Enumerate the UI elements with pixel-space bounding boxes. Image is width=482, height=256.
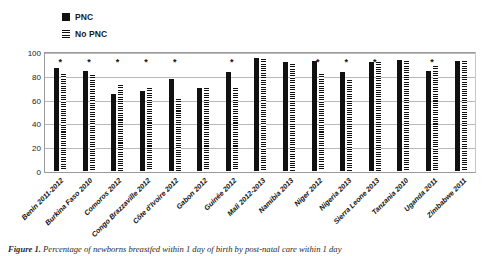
- bar-no-pnc: [319, 74, 324, 171]
- legend-swatch-hatch-icon: [62, 30, 70, 38]
- bar-pnc: [54, 68, 59, 171]
- bar-no-pnc: [61, 74, 66, 171]
- significance-asterisk: *: [144, 59, 148, 65]
- legend-item-no-pnc: No PNC: [62, 25, 202, 42]
- bar-pnc: [397, 60, 402, 171]
- chart-bars: **********: [46, 53, 475, 171]
- bar-no-pnc: [404, 61, 409, 171]
- bar-pnc: [455, 61, 460, 171]
- bar-group: *: [103, 53, 132, 171]
- legend-item-pnc: PNC: [62, 8, 202, 25]
- bar-group: [246, 53, 275, 171]
- chart-plot-area: 020406080100 **********: [44, 52, 476, 173]
- y-axis-tick-label: 40: [32, 120, 41, 129]
- bar-group: [189, 53, 218, 171]
- bar-pnc: [111, 94, 116, 171]
- bar-no-pnc: [261, 59, 266, 171]
- bar-pnc: [169, 79, 174, 171]
- bar-no-pnc: [233, 88, 238, 171]
- bar-no-pnc: [347, 80, 352, 171]
- significance-asterisk: *: [230, 59, 234, 65]
- bar-no-pnc: [118, 85, 123, 171]
- bar-group: [275, 53, 304, 171]
- significance-asterisk: *: [87, 59, 91, 65]
- bar-pnc: [197, 88, 202, 171]
- bar-no-pnc: [204, 88, 209, 171]
- bar-no-pnc: [176, 99, 181, 171]
- y-axis-tick-label: 80: [32, 72, 41, 81]
- bar-no-pnc: [376, 62, 381, 171]
- bar-group: *: [75, 53, 104, 171]
- significance-asterisk: *: [344, 59, 348, 65]
- significance-asterisk: *: [173, 59, 177, 65]
- bar-no-pnc: [462, 61, 467, 171]
- bar-group: *: [160, 53, 189, 171]
- significance-asterisk: *: [430, 59, 434, 65]
- y-axis-tick-label: 20: [32, 144, 41, 153]
- bar-pnc: [283, 62, 288, 171]
- legend-label-no-pnc: No PNC: [75, 29, 107, 39]
- x-axis-label-cell: Zimbabwe 2011: [447, 174, 476, 236]
- bar-pnc: [226, 72, 231, 171]
- bar-group: [389, 53, 418, 171]
- bar-group: [446, 53, 475, 171]
- y-axis-tick-label: 60: [32, 96, 41, 105]
- y-axis-tick-label: 0: [37, 168, 41, 177]
- chart-x-axis-labels: Benin 2011-2012Burkina Faso 2010Comoros …: [45, 174, 476, 236]
- bar-no-pnc: [433, 66, 438, 171]
- bar-pnc: [369, 62, 374, 171]
- figure-caption-text: Percentage of newborns breastfed within …: [43, 244, 341, 254]
- bar-pnc: [83, 71, 88, 171]
- significance-asterisk: *: [116, 59, 120, 65]
- figure-number: Figure 1.: [8, 244, 41, 254]
- legend-label-pnc: PNC: [75, 12, 93, 22]
- bar-group: *: [303, 53, 332, 171]
- bar-group: *: [46, 53, 75, 171]
- bar-pnc: [340, 72, 345, 171]
- bar-group: *: [132, 53, 161, 171]
- bar-group: *: [332, 53, 361, 171]
- bar-no-pnc: [90, 75, 95, 171]
- bar-no-pnc: [147, 88, 152, 171]
- bar-pnc: [312, 61, 317, 171]
- significance-asterisk: *: [59, 59, 63, 65]
- bar-group: *: [418, 53, 447, 171]
- legend-swatch-solid-icon: [62, 13, 70, 21]
- bar-group: *: [218, 53, 247, 171]
- chart-legend: PNC No PNC: [62, 8, 202, 42]
- bar-group: *: [361, 53, 390, 171]
- significance-asterisk: *: [316, 59, 320, 65]
- bar-pnc: [426, 71, 431, 171]
- bar-no-pnc: [290, 64, 295, 171]
- y-axis-tick-label: 100: [28, 49, 41, 58]
- significance-asterisk: *: [373, 59, 377, 65]
- figure-caption: Figure 1. Percentage of newborns breastf…: [8, 244, 476, 255]
- bar-pnc: [254, 58, 259, 171]
- bar-pnc: [140, 91, 145, 171]
